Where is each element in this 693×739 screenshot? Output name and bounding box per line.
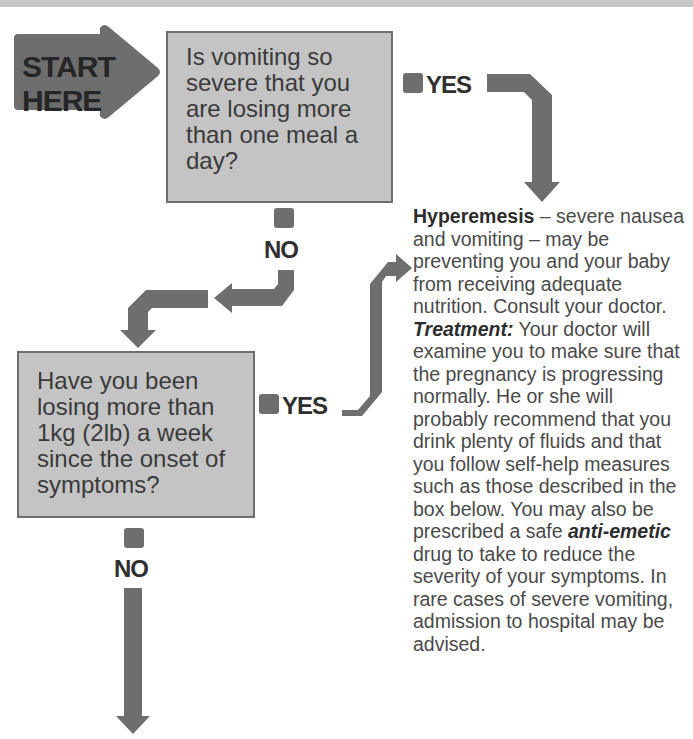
q2-line: Have you been (37, 368, 225, 394)
yes-label-1: YES (426, 71, 471, 99)
diagnosis-title: Hyperemesis (413, 205, 534, 227)
yes-marker-2 (259, 394, 279, 414)
no-arrow-1b (120, 290, 208, 348)
diagnosis-text: Hyperemesis – severe nausea and vomiting… (413, 205, 685, 655)
no-marker-1 (274, 208, 294, 228)
no-marker-2 (124, 528, 144, 548)
no-arrow-2 (116, 588, 150, 734)
question-1-text: Is vomiting so severe that you are losin… (186, 44, 358, 174)
yes-arrow-2 (342, 254, 412, 416)
yes-arrow-1 (487, 74, 560, 202)
no-arrow-1 (214, 270, 294, 313)
q1-line: are losing more (186, 96, 358, 122)
q1-line: than one meal a (186, 122, 358, 148)
treatment-text-2: drug to take to reduce the severity of y… (413, 543, 673, 655)
no-label-2: NO (114, 555, 148, 583)
q1-line: severe that you (186, 70, 358, 96)
start-line-2: HERE (22, 84, 115, 118)
treatment-term: anti-emetic (568, 520, 671, 542)
q2-line: losing more than (37, 394, 225, 420)
start-line-1: START (22, 50, 115, 84)
q2-line: since the onset of (37, 446, 225, 472)
no-label-1: NO (264, 236, 298, 264)
treatment-label: Treatment: (413, 318, 513, 340)
question-2-text: Have you been losing more than 1kg (2lb)… (37, 368, 225, 498)
yes-marker-1 (403, 73, 423, 93)
q2-line: symptoms? (37, 472, 225, 498)
start-label: START HERE (22, 50, 115, 118)
q2-line: 1kg (2lb) a week (37, 420, 225, 446)
q1-line: day? (186, 148, 358, 174)
yes-label-2: YES (282, 392, 327, 420)
q1-line: Is vomiting so (186, 44, 358, 70)
treatment-text-1: Your doctor will examine you to make sur… (413, 318, 680, 543)
